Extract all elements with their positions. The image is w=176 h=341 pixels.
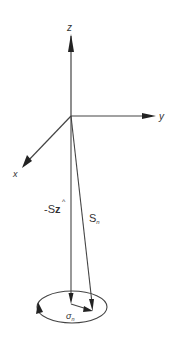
- y-axis-label: y: [158, 111, 165, 122]
- y-axis: y: [71, 111, 165, 122]
- neg-s-z-label: -Sz: [44, 203, 61, 215]
- y-axis-arrowhead-icon: [142, 113, 156, 119]
- x-axis-arrowhead-icon: [22, 155, 32, 168]
- s-n-vector: Sn: [71, 116, 100, 311]
- neg-s-z-vector: -Sz ^: [44, 116, 74, 304]
- z-axis: z: [66, 22, 74, 116]
- diagram-canvas: z y x -Sz ^ Sn σn: [0, 0, 176, 341]
- x-axis: x: [12, 116, 71, 179]
- z-axis-arrowhead-icon: [68, 34, 74, 52]
- x-axis-label: x: [12, 169, 18, 179]
- neg-s-z-hat: ^: [62, 198, 66, 205]
- s-n-label: Sn: [89, 212, 100, 225]
- sigma-n-vector: σn: [66, 304, 93, 322]
- sigma-n-label: σn: [66, 311, 75, 322]
- neg-s-z-arrowhead-icon: [69, 293, 74, 304]
- z-axis-label: z: [66, 22, 72, 33]
- s-n-line: [71, 116, 92, 303]
- x-axis-line: [26, 116, 71, 163]
